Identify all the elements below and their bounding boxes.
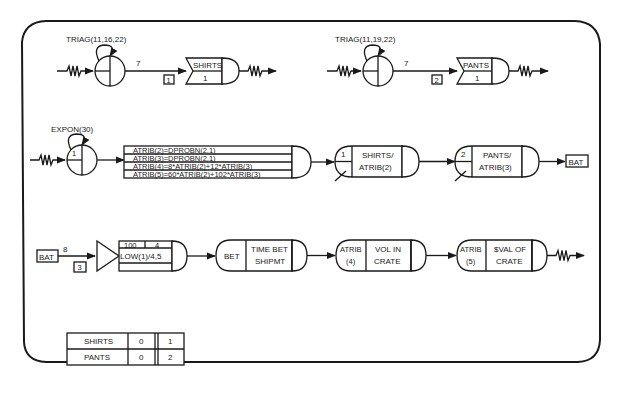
batch-top-left: 100	[124, 241, 137, 250]
await-file: 1	[341, 150, 346, 159]
resource-initial: 0	[139, 337, 144, 346]
await-label-2: ATRIB(3)	[479, 163, 512, 172]
batch-middle: LOW(1)/4,5	[120, 252, 162, 261]
collect-line-2: SHIPMT	[255, 257, 285, 266]
start-label: BAT	[39, 253, 54, 262]
await-label-2: ATRIB(2)	[359, 163, 392, 172]
squiggle-arrow-icon	[30, 155, 65, 165]
await-node-shirts[interactable]: 1 SHIRTS/ ATRIB(2)	[335, 146, 419, 181]
squiggle-arrow-icon	[327, 66, 361, 76]
await-label-1: PANTS/	[483, 151, 512, 160]
collect-node-value[interactable]: ATRIB (5) $VAL OF CRATE	[457, 240, 547, 271]
pants-distribution-label: TRIAG(11,19,22)	[335, 35, 396, 44]
activity-number: 3	[78, 263, 82, 272]
collect-left-1: ATRIB	[460, 245, 482, 254]
squiggle-arrow-icon	[509, 66, 548, 76]
activity-number: 1	[167, 76, 171, 85]
collect-line-1: TIME BET	[251, 245, 288, 254]
collect-left-1: ATRIB	[340, 245, 362, 254]
queue-init: 1	[203, 74, 208, 83]
collect-left: BET	[224, 252, 240, 261]
pants-arrival-branch: TRIAG(11,19,22) 7 2 PANTS 1	[327, 35, 548, 86]
collect-line-1: $VAL OF	[494, 245, 526, 254]
resource-name: SHIRTS	[84, 337, 113, 346]
collect-left-2: (4)	[346, 257, 356, 266]
batch-triangle-icon	[97, 241, 119, 271]
order-arrival-branch: 1 EXPON(30) ATRIB(2)=DPROBN(2,1) ATRIB(3…	[30, 125, 588, 181]
activity-attr: 7	[404, 59, 409, 68]
orders-distribution-label: EXPON(30)	[51, 125, 94, 134]
await-label-1: SHIRTS/	[362, 151, 394, 160]
squiggle-arrow-icon	[57, 66, 93, 76]
network-diagram: TRIAG(11,16,22) 7 1 SHIRTS 1 TRIAG(11,19…	[0, 0, 622, 397]
collect-line-2: CRATE	[374, 257, 401, 266]
create-node-shirts[interactable]	[95, 45, 125, 86]
assign-node[interactable]: ATRIB(2)=DPROBN(2,1) ATRIB(3)=DPROBN(2,1…	[124, 146, 311, 179]
activity-attr: 8	[63, 245, 68, 254]
create-count: 1	[72, 149, 76, 158]
batch-branch: BAT 8 3 100 4 LOW(1)/4,5 BET TIME BET SH…	[37, 240, 584, 272]
squiggle-arrow-icon	[239, 66, 276, 76]
resource-file: 2	[168, 353, 173, 362]
resource-initial: 0	[139, 353, 144, 362]
queue-node-pants[interactable]: PANTS 1	[457, 58, 509, 84]
collect-line-2: CRATE	[496, 257, 523, 266]
resource-name: PANTS	[84, 353, 110, 362]
goto-label: BAT	[569, 158, 584, 167]
batch-node[interactable]: 100 4 LOW(1)/4,5	[97, 241, 187, 272]
shirts-arrival-branch: TRIAG(11,16,22) 7 1 SHIRTS 1	[57, 35, 276, 86]
assign-line-4: ATRIB(5)=60*ATRIB(2)+102*ATRIB(3)	[133, 170, 261, 179]
collect-line-1: VOL IN	[375, 245, 401, 254]
create-node-orders[interactable]: 1	[67, 134, 97, 175]
queue-label: SHIRTS	[193, 61, 222, 70]
queue-node-shirts[interactable]: SHIRTS 1	[186, 58, 239, 84]
collect-node-volume[interactable]: ATRIB (4) VOL IN CRATE	[336, 240, 426, 271]
activity-number: 2	[435, 76, 439, 85]
queue-init: 1	[475, 74, 480, 83]
activity-attr: 7	[136, 59, 141, 68]
squiggle-arrow-icon	[547, 251, 584, 261]
collect-node-bet[interactable]: BET TIME BET SHIPMT	[216, 240, 307, 271]
collect-left-2: (5)	[466, 257, 476, 266]
resource-file: 1	[168, 337, 173, 346]
queue-label: PANTS	[463, 61, 489, 70]
shirts-distribution-label: TRIAG(11,16,22)	[66, 35, 127, 44]
await-node-pants[interactable]: 2 PANTS/ ATRIB(3)	[455, 146, 539, 181]
create-node-pants[interactable]	[363, 45, 393, 86]
resource-table: SHIRTS 0 1 PANTS 0 2	[67, 333, 184, 365]
await-file: 2	[461, 150, 466, 159]
batch-top-right: 4	[155, 241, 159, 250]
